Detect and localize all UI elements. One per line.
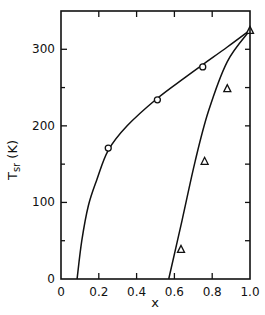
- x-tick-label: 0.8: [203, 285, 222, 299]
- y-tick-label: 300: [32, 42, 55, 56]
- y-tick-label: 100: [32, 195, 55, 209]
- x-tick-label: 0: [57, 285, 65, 299]
- y-tick-label: 200: [32, 119, 55, 133]
- triangle-marker: [201, 157, 208, 164]
- x-axis-label: x: [151, 295, 159, 310]
- plot-area: [77, 26, 253, 279]
- x-tick-label: 0.6: [165, 285, 184, 299]
- triangle-marker: [224, 85, 231, 92]
- right-fit-curve: [169, 30, 250, 279]
- y-axis-label: Tsr (K): [5, 140, 22, 181]
- circle-marker: [200, 64, 206, 70]
- y-tick-label: 0: [47, 272, 55, 286]
- x-axis-ticks: 00.20.40.60.81.0: [57, 11, 259, 299]
- phase-diagram-chart: 00.20.40.60.81.0 0100200300 x Tsr (K): [0, 0, 265, 315]
- triangle-marker: [178, 245, 185, 252]
- x-tick-label: 0.4: [127, 285, 146, 299]
- circle-marker: [154, 97, 160, 103]
- circle-marker: [105, 145, 111, 151]
- x-tick-label: 0.2: [89, 285, 108, 299]
- x-tick-label: 1.0: [240, 285, 259, 299]
- y-axis-ticks: 0100200300: [32, 42, 250, 286]
